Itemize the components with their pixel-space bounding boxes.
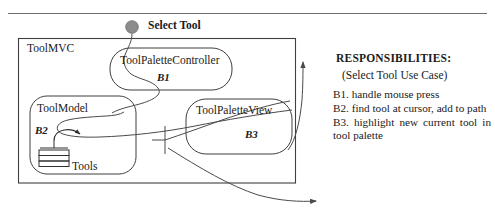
tools-label: Tools [72, 160, 97, 173]
select-tool-marker [126, 21, 139, 34]
interface-port-icon [152, 126, 165, 154]
connector-bottom-exit [168, 148, 316, 201]
toolpaletteview-label: ToolPaletteView [196, 104, 272, 117]
responsibilities-panel: RESPONSIBILITIES: (Select Tool Use Case)… [333, 52, 491, 143]
toolmodel-tag: B2 [35, 124, 48, 136]
responsibilities-list: B1. handle mouse press B2. find tool at … [333, 88, 491, 143]
toolpaletteview-tag: B3 [245, 128, 258, 140]
connector-controller-to-model [112, 74, 159, 113]
list-item: B1. handle mouse press [333, 88, 491, 102]
list-item: B2. find tool at cursor, add to path [333, 102, 491, 116]
list-item: B3. highlight new current tool in tool p… [333, 116, 491, 144]
stacked-layers-icon [39, 141, 69, 167]
responsibilities-subtitle: (Select Tool Use Case) [342, 69, 491, 81]
toolpalettecontroller-tag: B1 [157, 71, 170, 83]
toolmodel-label: ToolModel [37, 102, 88, 115]
toolmvc-label: ToolMVC [27, 42, 74, 55]
select-tool-label: Select Tool [148, 19, 201, 32]
responsibilities-title: RESPONSIBILITIES: [336, 52, 491, 64]
diagram-canvas: Select Tool ToolMVC ToolPaletteControlle… [0, 0, 495, 224]
toolpalettecontroller-label: ToolPaletteController [120, 54, 219, 67]
